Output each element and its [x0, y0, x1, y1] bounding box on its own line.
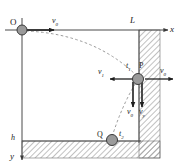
ball-at-point-q: [107, 135, 118, 146]
label-time-t2: t2: [119, 130, 124, 141]
trajectory-o-to-p: [26, 31, 138, 77]
diagram-canvas: [0, 0, 181, 168]
label-wall-distance-L: L: [130, 16, 135, 25]
label-velocity-v1: v1: [98, 68, 104, 79]
ball-at-point-p: [133, 74, 144, 85]
projectile-physics-diagram: O v0 L x v1 t1 P v0 v0 vy Q t2 h y: [0, 0, 181, 168]
label-point-p: P: [139, 62, 143, 70]
label-velocity-v0-through-wall: v0: [160, 67, 166, 78]
label-time-t1: t1: [126, 62, 131, 73]
ball-at-origin: [17, 25, 27, 35]
label-velocity-vy-vertical-right: vy: [139, 108, 145, 119]
label-velocity-v0-initial: v0: [52, 17, 58, 28]
label-depth-h: h: [11, 134, 15, 142]
ground-hatched-region: [22, 141, 160, 158]
label-axis-y: y: [10, 152, 14, 161]
label-axis-x: x: [170, 25, 174, 34]
label-point-q: Q: [97, 131, 103, 139]
label-velocity-v0-vertical-left: v0: [127, 108, 133, 119]
label-origin-o: O: [10, 18, 17, 27]
